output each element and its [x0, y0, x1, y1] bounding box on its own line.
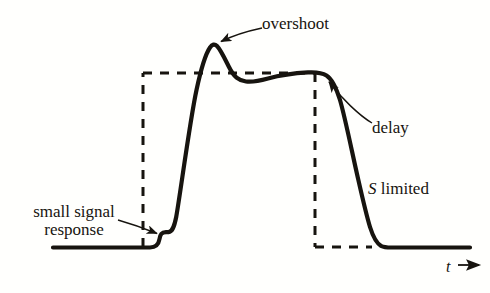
annotation-label-s-limited: S limited [368, 180, 429, 198]
annotation-label-small-signal-response: small signalresponse [13, 203, 135, 240]
small-signal-line-2: response [44, 220, 103, 239]
annotation-label-overshoot: overshoot [262, 15, 329, 33]
axis-label-time: t [446, 258, 450, 275]
small-signal-line-1: small signal [33, 202, 115, 221]
annotation-label-delay: delay [372, 119, 409, 137]
overshoot-annotation [221, 28, 262, 42]
overshoot-pointer-icon [221, 28, 262, 42]
pulse-response-figure [0, 0, 490, 293]
s-limited-symbol: S [368, 179, 377, 198]
s-limited-text: limited [377, 179, 429, 198]
